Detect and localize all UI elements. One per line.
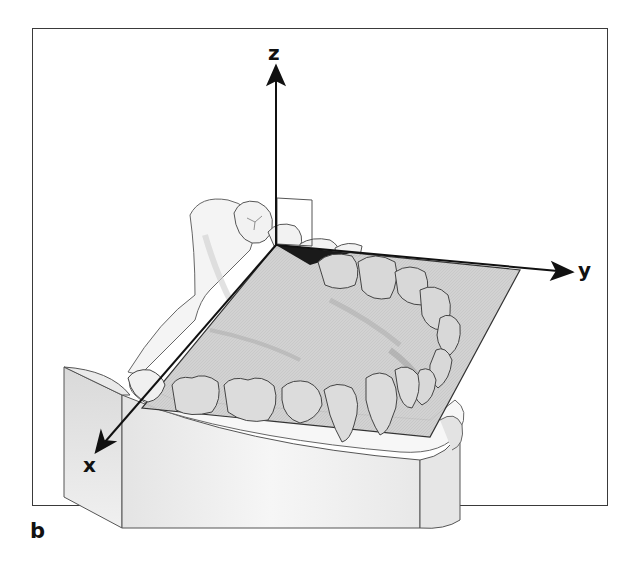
- panel-label: b: [30, 521, 45, 542]
- dental-cast-diagram: [0, 0, 641, 567]
- x-axis-label: x: [83, 455, 96, 475]
- y-axis-label: y: [578, 260, 591, 280]
- z-axis-label: z: [268, 43, 280, 63]
